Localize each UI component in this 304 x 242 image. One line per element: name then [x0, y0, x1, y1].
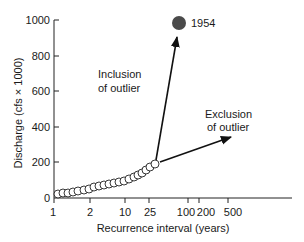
x-tick-label: 1	[50, 206, 56, 218]
x-tick-label: 200	[197, 206, 215, 218]
x-tick-label: 10	[119, 206, 131, 218]
inclusion-label-line1: Inclusion	[98, 68, 141, 80]
outlier-label: 1954	[191, 17, 215, 29]
x-axis: 1 2 10 25 100 200 500 Recurrence interva…	[50, 198, 292, 234]
inclusion-label-line2: of outlier	[98, 82, 141, 94]
exclusion-label-line2: of outlier	[207, 121, 250, 133]
inclusion-arrow	[156, 37, 177, 160]
x-axis-label: Recurrence interval (years)	[97, 222, 230, 234]
y-tick-label: 600	[32, 85, 50, 97]
x-ticks	[54, 198, 228, 203]
y-tick-label: 800	[32, 50, 50, 62]
y-axis: 1000 800 600 400 200 0 Discharge (cfs × …	[12, 14, 59, 204]
data-points	[54, 160, 159, 198]
y-tick-label: 200	[32, 156, 50, 168]
x-tick-label: 100	[177, 206, 195, 218]
exclusion-arrow	[160, 137, 231, 162]
x-tick-label: 25	[144, 206, 156, 218]
y-tick-label: 400	[32, 121, 50, 133]
y-axis-label: Discharge (cfs × 1000)	[12, 58, 24, 169]
x-tick-label: 2	[87, 206, 93, 218]
x-tick-label: 500	[224, 206, 242, 218]
y-tick-label: 0	[44, 192, 50, 204]
outlier-point-1954	[172, 16, 186, 30]
data-point	[151, 160, 159, 168]
y-tick-label: 1000	[26, 14, 50, 26]
flood-frequency-chart: 1000 800 600 400 200 0 Discharge (cfs × …	[0, 0, 304, 242]
y-ticks	[54, 20, 59, 162]
exclusion-label-line1: Exclusion	[205, 108, 252, 120]
